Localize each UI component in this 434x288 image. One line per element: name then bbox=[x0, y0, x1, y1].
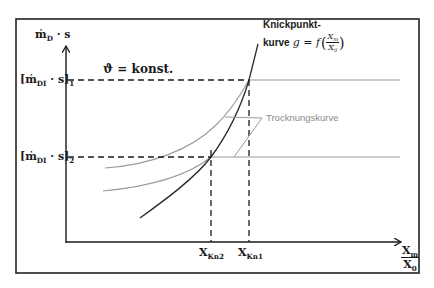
level-2-label: [ṁDI · s]2 bbox=[20, 150, 74, 163]
knickpunkt-label-kurve: kurve bbox=[263, 37, 290, 48]
knickpunkt-formula: g = f bbox=[293, 36, 320, 49]
x-axis-num-main: X bbox=[402, 244, 411, 257]
level-2-prefix: [ṁ bbox=[20, 150, 37, 163]
y-axis-label-symbol: ṁ bbox=[35, 28, 47, 41]
outer-frame bbox=[16, 19, 419, 273]
x-tick-kn1: XKn1 bbox=[238, 246, 263, 259]
knickpunkt-frac-num: Xm bbox=[326, 33, 339, 43]
level-1-index: 1 bbox=[69, 79, 74, 88]
x-axis-den-main: X bbox=[403, 258, 412, 271]
constant-note: ϑ = konst. bbox=[103, 62, 173, 76]
x-tick-kn2-main: X bbox=[199, 246, 208, 259]
knickpunkt-frac-num-sub: m bbox=[333, 36, 338, 42]
trocknungskurve-label: Trocknungskurve bbox=[266, 112, 339, 123]
y-axis-label: ṁD · s bbox=[35, 28, 71, 41]
knickpunkt-fraction: Xm X0 bbox=[326, 33, 339, 52]
drying-curve-1 bbox=[105, 80, 249, 168]
x-axis-num-sub: m bbox=[411, 250, 419, 259]
x-axis-label: Xm X0 bbox=[401, 245, 419, 270]
level-1-sub: DI bbox=[37, 79, 47, 88]
paren-close: ) bbox=[339, 35, 344, 51]
level-2-index: 2 bbox=[69, 156, 74, 165]
level-1-mid: · s] bbox=[46, 73, 69, 86]
level-2-sub: DI bbox=[37, 156, 47, 165]
x-tick-kn2-sub: Kn2 bbox=[208, 252, 224, 261]
level-1-label: [ṁDI · s]1 bbox=[20, 73, 74, 86]
x-axis-denominator: X0 bbox=[403, 258, 417, 270]
level-2-mid: · s] bbox=[46, 150, 69, 163]
knickpunkt-label-line2: kurve g = f ( Xm X0 ) bbox=[263, 33, 345, 52]
knickpunkt-frac-den: X0 bbox=[328, 43, 337, 52]
level-1-prefix: [ṁ bbox=[20, 73, 37, 86]
x-tick-kn2: XKn2 bbox=[199, 246, 224, 259]
x-tick-kn1-main: X bbox=[238, 246, 247, 259]
x-axis-numerator: Xm bbox=[401, 245, 419, 258]
pointer-to-curve-2 bbox=[234, 118, 262, 157]
x-tick-kn1-sub: Kn1 bbox=[247, 252, 263, 261]
knickpunkt-label-line1: Knickpunkt- bbox=[263, 19, 321, 30]
diagram-graphics bbox=[0, 0, 434, 288]
y-axis-label-rest: · s bbox=[53, 28, 71, 41]
pointer-to-curve-1 bbox=[225, 117, 262, 118]
diagram-canvas: ṁD · s ϑ = konst. [ṁDI · s]1 [ṁDI · s]2 … bbox=[0, 0, 434, 288]
x-axis-den-sub: 0 bbox=[412, 264, 417, 273]
y-axis-label-sub: D bbox=[47, 34, 53, 43]
knickpunkt-frac-den-sub: 0 bbox=[334, 47, 337, 53]
x-axis-fraction: Xm X0 bbox=[401, 245, 419, 270]
